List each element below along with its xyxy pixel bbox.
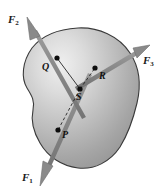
physics-force-diagram: F2 F3 F1 Q R S P — [0, 0, 164, 194]
diagram-canvas — [0, 0, 164, 194]
point-label-Q: Q — [42, 62, 49, 72]
force-label-F2: F2 — [8, 14, 19, 27]
F1-arrowhead — [40, 161, 53, 186]
point-label-R: R — [99, 71, 106, 81]
force-label-F1-subscript: 1 — [29, 177, 33, 185]
force-label-F3-subscript: 3 — [150, 60, 154, 68]
F2-arrowhead — [27, 17, 40, 40]
point-R-dot — [92, 65, 97, 70]
point-P-dot — [55, 127, 60, 132]
point-Q-dot — [54, 55, 59, 60]
point-label-S: S — [76, 92, 82, 102]
force-label-F3: F3 — [143, 55, 154, 68]
force-label-F2-subscript: 2 — [15, 19, 19, 27]
point-label-P: P — [62, 130, 68, 140]
force-label-F1: F1 — [22, 172, 33, 185]
